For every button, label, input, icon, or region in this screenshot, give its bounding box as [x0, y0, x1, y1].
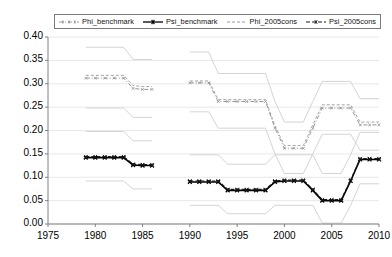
legend-item-psi-2005cons: Psi_2005cons	[306, 17, 376, 26]
band-Phi_upper-seg1	[86, 47, 152, 59]
legend-item-psi-benchmark: Psi_benchmark	[143, 17, 218, 26]
legend-swatch-phi-benchmark	[59, 18, 79, 26]
x-axis-tick-label: 2005	[314, 230, 350, 241]
y-axis-tick-label: 0.05	[2, 194, 43, 205]
x-axis-tick-label: 1995	[219, 230, 255, 241]
legend-label-psi-benchmark: Psi_benchmark	[166, 17, 218, 26]
band-Psi_upper-seg1	[86, 131, 152, 140]
legend-swatch-phi-2005cons	[227, 18, 247, 26]
y-axis-tick-label: 0.35	[2, 53, 43, 64]
legend-label-psi-2005cons: Psi_2005cons	[329, 17, 376, 26]
y-axis-tick-label: 0.10	[2, 170, 43, 181]
legend-swatch-psi-benchmark	[143, 18, 163, 26]
y-axis-tick-label: 0.40	[2, 30, 43, 41]
chart-series-group	[84, 75, 381, 202]
y-axis-tick-label: 0.20	[2, 124, 43, 135]
chart-legend: Phi_benchmark Psi_benchmark Phi_2005cons…	[54, 14, 381, 29]
series-Phi_benchmark-seg2	[190, 83, 379, 148]
chart-plot-area	[0, 0, 392, 257]
x-axis-tick-label: 1990	[172, 230, 208, 241]
marker-Phi_benchmark	[132, 87, 135, 90]
y-axis-tick-label: 0.25	[2, 100, 43, 111]
series-Phi_2005cons-seg1	[86, 75, 152, 86]
x-axis-tick-label: 1975	[30, 230, 66, 241]
y-axis-tick-label: 0.00	[2, 217, 43, 228]
series-Phi_2005cons-seg2	[190, 81, 379, 146]
x-axis-tick-label: 2010	[361, 230, 392, 241]
legend-label-phi-benchmark: Phi_benchmark	[82, 17, 134, 26]
band-Psi_lower-seg2	[190, 184, 379, 223]
band-Psi_lower-seg1	[86, 181, 152, 189]
series-Psi_2005cons-seg2	[190, 159, 379, 200]
y-axis-tick-label: 0.15	[2, 147, 43, 158]
chart-confidence-bands	[86, 47, 379, 223]
band-Phi_lower-seg1	[86, 108, 152, 117]
legend-label-phi-2005cons: Phi_2005cons	[250, 17, 297, 26]
y-axis-tick-label: 0.30	[2, 77, 43, 88]
x-axis-tick-label: 2000	[266, 230, 302, 241]
x-axis-tick-label: 1980	[77, 230, 113, 241]
chart-gridlines	[48, 37, 379, 224]
chart-figure: Phi_benchmark Psi_benchmark Phi_2005cons…	[0, 0, 392, 257]
legend-item-phi-benchmark: Phi_benchmark	[59, 17, 134, 26]
x-axis-tick-label: 1985	[125, 230, 161, 241]
band-Psi_upper-seg2	[190, 132, 379, 173]
legend-item-phi-2005cons: Phi_2005cons	[227, 17, 297, 26]
marker-Phi_benchmark	[368, 123, 371, 126]
marker-Phi_benchmark	[378, 123, 381, 126]
band-Phi_upper-seg2	[190, 52, 379, 122]
legend-swatch-psi-2005cons	[306, 18, 326, 26]
